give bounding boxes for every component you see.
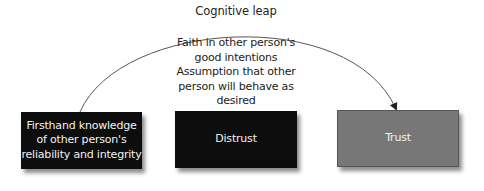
firsthand-knowledge-box: Firsthand knowledge of other person's re…	[21, 112, 142, 169]
cognitive-leap-diagram: Cognitive leap Faith in other person's g…	[0, 0, 484, 191]
box-label-line: reliability and integrity	[21, 148, 141, 163]
leap-description-line: Assumption that other	[146, 65, 326, 80]
cognitive-leap-label: Cognitive leap	[136, 4, 336, 18]
trust-box: Trust	[337, 110, 459, 167]
distrust-box: Distrust	[175, 111, 297, 168]
leap-description-line: Faith in other person's	[146, 36, 326, 51]
box-label-line: Firsthand knowledge	[21, 119, 141, 134]
leap-description: Faith in other person's good intentions …	[146, 36, 326, 109]
box-label-line: of other person's	[21, 133, 141, 148]
leap-description-line: good intentions	[146, 51, 326, 66]
leap-description-line: desired	[146, 94, 326, 109]
leap-description-line: person will behave as	[146, 80, 326, 95]
box-label: Distrust	[215, 132, 257, 147]
box-label: Trust	[385, 131, 411, 146]
